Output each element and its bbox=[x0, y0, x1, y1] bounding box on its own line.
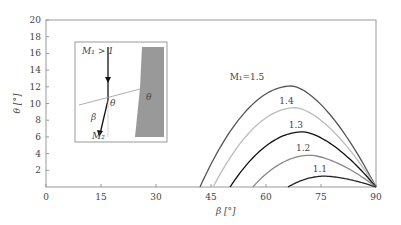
inset-label-m2: M₂ bbox=[91, 131, 105, 141]
curve-label: 1.1 bbox=[313, 164, 327, 174]
y-tick-label: 2 bbox=[35, 165, 41, 175]
curve-label: 1.3 bbox=[289, 120, 304, 130]
y-tick-label: 18 bbox=[30, 32, 42, 42]
x-tick-label: 0 bbox=[43, 192, 49, 202]
x-tick-label: 30 bbox=[150, 192, 162, 202]
y-tick-label: 4 bbox=[35, 149, 41, 159]
y-axis-label: θ [°] bbox=[12, 93, 22, 113]
y-tick-label: 8 bbox=[35, 115, 41, 125]
inset-label-beta: β bbox=[90, 112, 96, 122]
y-tick-label: 10 bbox=[30, 99, 42, 109]
x-tick-label: 15 bbox=[95, 192, 107, 202]
x-tick-label: 60 bbox=[260, 192, 272, 202]
inset-label-theta: θ bbox=[110, 98, 116, 108]
curve-label: 1.4 bbox=[279, 96, 294, 106]
y-tick-label: 6 bbox=[35, 132, 41, 142]
curve-label: 1.2 bbox=[296, 143, 310, 153]
y-tick-label: 14 bbox=[30, 65, 42, 75]
y-tick-label: 16 bbox=[30, 48, 42, 58]
curve-1.3 bbox=[230, 132, 376, 187]
curve-label: M₁=1.5 bbox=[230, 72, 265, 82]
inset-label-theta-wall: θ bbox=[146, 92, 152, 102]
inset-label-m1: M₁ > 1 bbox=[81, 46, 114, 56]
x-tick-label: 45 bbox=[205, 192, 217, 202]
y-tick-label: 12 bbox=[30, 82, 41, 92]
y-tick-label: 20 bbox=[30, 15, 42, 25]
oblique-shock-chart: 01530456075902468101214161820β [°]θ [°]M… bbox=[0, 0, 401, 225]
x-tick-label: 90 bbox=[370, 192, 382, 202]
x-axis-label: β [°] bbox=[215, 206, 236, 216]
inset-diagram: M₁ > 1M₂βθθ bbox=[75, 42, 167, 142]
x-tick-label: 75 bbox=[315, 192, 327, 202]
